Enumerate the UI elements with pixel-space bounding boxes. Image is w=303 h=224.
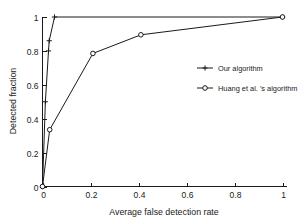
data-point-marker xyxy=(203,86,208,91)
y-tick-label: 0.4 xyxy=(27,115,39,125)
data-point-marker xyxy=(91,51,96,56)
series-line xyxy=(43,17,283,187)
y-axis-title: Detected fraction xyxy=(8,68,18,135)
x-axis-ticks xyxy=(44,183,284,187)
chart-legend: Our algorithmHuang et al. 's algorithm xyxy=(197,64,297,93)
x-tick-label: 1 xyxy=(281,190,286,200)
x-tick-label: 0.6 xyxy=(182,190,194,200)
series-1 xyxy=(40,14,285,189)
x-tick-label: 0 xyxy=(41,190,46,200)
data-point-marker xyxy=(280,15,285,20)
axes-group xyxy=(43,17,287,187)
chart-canvas: 00.20.40.60.81 00.20.40.60.81 Average fa… xyxy=(0,0,303,224)
y-tick-label: 1 xyxy=(34,13,39,23)
legend-item-2: Huang et al. 's algorithm xyxy=(197,84,297,93)
series-group xyxy=(40,14,285,189)
data-point-marker xyxy=(40,184,45,189)
legend-label: Huang et al. 's algorithm xyxy=(218,84,297,93)
data-point-marker xyxy=(139,32,144,37)
y-tick-label: 0.2 xyxy=(27,149,39,159)
legend-item-1: Our algorithm xyxy=(197,64,263,73)
y-tick-label: 0.8 xyxy=(27,47,39,57)
x-axis-title: Average false detection rate xyxy=(109,207,218,217)
x-tick-label: 0.2 xyxy=(86,190,98,200)
data-point-marker xyxy=(47,127,52,132)
x-axis-tick-labels: 00.20.40.60.81 xyxy=(41,190,286,200)
x-tick-label: 0.4 xyxy=(134,190,146,200)
y-axis-tick-labels: 00.20.40.60.81 xyxy=(27,13,39,193)
y-tick-label: 0.6 xyxy=(27,81,39,91)
roc-chart-figure: 00.20.40.60.81 00.20.40.60.81 Average fa… xyxy=(0,0,303,224)
series-line xyxy=(43,17,283,187)
legend-label: Our algorithm xyxy=(218,64,263,73)
y-tick-label: 0 xyxy=(34,183,39,193)
x-tick-label: 0.8 xyxy=(230,190,242,200)
series-2 xyxy=(40,15,285,189)
